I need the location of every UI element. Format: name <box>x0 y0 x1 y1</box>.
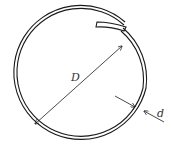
wire-ring <box>14 5 147 139</box>
coil-diagram: D d <box>0 0 173 159</box>
thickness-label: d <box>157 107 164 120</box>
diameter-arrow <box>35 46 122 124</box>
diameter-dimension: D <box>35 46 122 124</box>
wire-outer-edge <box>14 5 147 139</box>
thickness-arrow-outer <box>115 96 135 107</box>
wire-inner-edge <box>17 8 144 136</box>
thickness-dimension: d <box>115 96 164 122</box>
diameter-label: D <box>70 71 80 84</box>
